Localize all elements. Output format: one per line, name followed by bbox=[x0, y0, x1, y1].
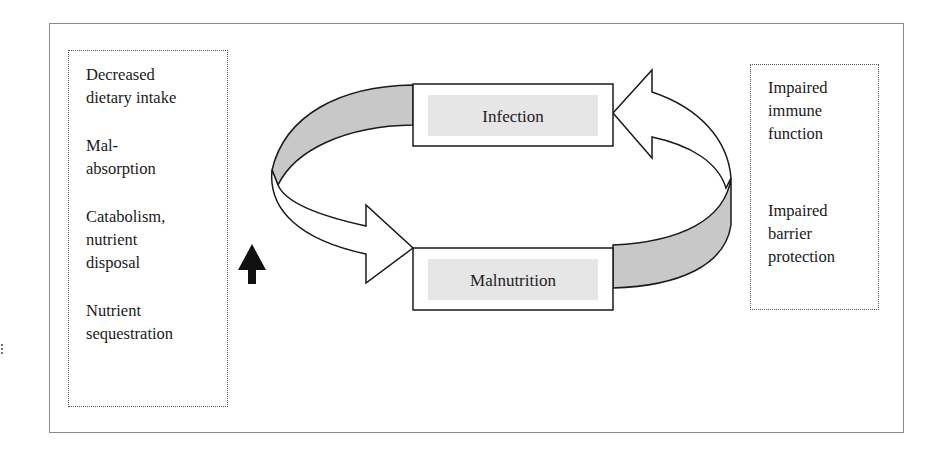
right-ribbon-shaded bbox=[613, 178, 731, 288]
left-arrow-to-malnutrition bbox=[272, 170, 413, 283]
right-arrow-to-infection bbox=[613, 70, 731, 188]
malnutrition-node: Malnutrition bbox=[413, 248, 613, 310]
infection-label: Infection bbox=[482, 107, 544, 126]
up-arrow-icon bbox=[238, 244, 266, 284]
infection-node: Infection bbox=[413, 84, 613, 146]
left-ribbon-shaded bbox=[272, 85, 413, 185]
cycle-diagram: Infection Malnutrition bbox=[0, 0, 941, 451]
malnutrition-label: Malnutrition bbox=[470, 271, 556, 290]
